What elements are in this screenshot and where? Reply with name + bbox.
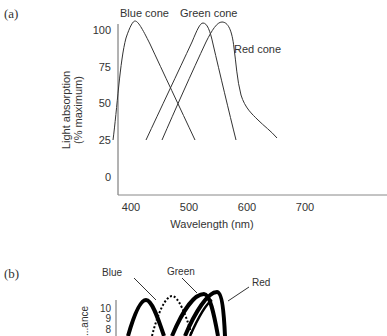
blue-curve-b — [128, 300, 164, 336]
y-tick-75: 75 — [99, 61, 111, 73]
y-tick-25: 25 — [99, 134, 111, 146]
panel-b-curve-labels: Blue Green Red — [102, 266, 270, 288]
svg-text:9: 9 — [105, 313, 111, 324]
y-tick-100: 100 — [93, 24, 111, 36]
panel-a-curves — [113, 21, 277, 140]
panel-b-y-ticks: 10 9 8 — [100, 303, 112, 335]
panel-a-x-label: Wavelength (nm) — [170, 218, 253, 230]
panel-a-x-ticks: 400 500 600 700 — [122, 201, 314, 213]
panel-b-curves — [128, 292, 225, 336]
label-blue-cone: Blue cone — [120, 7, 169, 19]
red-cone-curve — [162, 22, 277, 140]
svg-text:Light absorption: Light absorption — [60, 71, 72, 149]
panel-b-leader-lines — [134, 278, 249, 301]
x-tick-600: 600 — [238, 201, 256, 213]
panel-a-curve-labels: Blue cone Green cone Red cone — [120, 7, 281, 55]
x-tick-400: 400 — [122, 201, 140, 213]
panel-b-y-label: ...ance — [79, 306, 90, 336]
panel-a-y-label: Light absorption (% maximum) — [60, 71, 84, 149]
svg-text:8: 8 — [105, 324, 111, 335]
label-red-cone: Red cone — [234, 43, 281, 55]
panel-a-y-ticks: 100 75 50 25 0 — [93, 24, 111, 183]
label-green: Green — [167, 266, 195, 277]
x-tick-700: 700 — [296, 201, 314, 213]
y-tick-50: 50 — [99, 97, 111, 109]
green-cone-curve — [146, 23, 236, 140]
label-green-cone: Green cone — [180, 7, 237, 19]
label-blue: Blue — [102, 267, 122, 278]
svg-text:(% maximum): (% maximum) — [72, 76, 84, 144]
x-tick-500: 500 — [180, 201, 198, 213]
y-tick-0: 0 — [105, 171, 111, 183]
chart-canvas: 100 75 50 25 0 Light absorption (% maxim… — [0, 0, 387, 336]
label-red: Red — [252, 277, 270, 288]
